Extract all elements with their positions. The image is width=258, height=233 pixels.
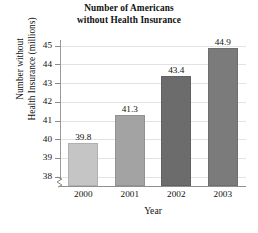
x-axis-title: Year [60, 205, 246, 216]
plot-area [60, 40, 246, 186]
y-axis-tick-label: 42 [34, 97, 52, 106]
y-axis-tick-label-text: 45 [34, 41, 52, 50]
y-axis-tick-label: 43 [34, 79, 52, 88]
x-axis-tick-label: 2001 [110, 189, 150, 200]
bar-value-label: 39.8 [63, 132, 103, 142]
y-axis-tick-label: 38 [34, 172, 52, 181]
y-axis-tick-label-text: 43 [34, 79, 52, 88]
axis-break-icon [55, 176, 66, 188]
bar[interactable] [161, 76, 191, 186]
y-axis-tick [55, 83, 60, 84]
y-axis-tick [55, 158, 60, 159]
y-axis-tick-label-text: 38 [34, 172, 52, 181]
bar[interactable] [115, 115, 145, 186]
y-axis-line [60, 40, 61, 180]
y-axis-tick-label: 44 [34, 60, 52, 69]
bar-value-label: 43.4 [156, 65, 196, 75]
bar-chart-figure: Number of Americans without Health Insur… [0, 0, 258, 233]
y-axis-tick [55, 121, 60, 122]
bar[interactable] [68, 143, 98, 186]
y-axis-tick-label: 41 [34, 116, 52, 125]
bar-value-label: 41.3 [110, 104, 150, 114]
y-axis-tick [55, 46, 60, 47]
x-axis-line [59, 186, 246, 187]
y-axis-tick-label-text: 40 [34, 135, 52, 144]
y-axis-tick-label: 39 [34, 153, 52, 162]
y-axis-tick-label-text: 42 [34, 97, 52, 106]
y-axis-title: Number without Health Insurance (million… [14, 0, 40, 154]
x-axis-tick-label: 2003 [203, 189, 243, 200]
bar[interactable] [208, 48, 238, 187]
y-axis-tick [55, 64, 60, 65]
x-axis-tick-label: 2002 [156, 189, 196, 200]
x-axis-tick-label: 2000 [63, 189, 103, 200]
y-axis-tick [55, 177, 60, 178]
y-axis-tick-label: 40 [34, 135, 52, 144]
y-axis-tick-label-text: 44 [34, 60, 52, 69]
y-axis-tick-label-text: 39 [34, 153, 52, 162]
y-axis-tick [55, 139, 60, 140]
y-axis-tick-label: 45 [34, 41, 52, 50]
y-axis-title-line-2: Health Insurance (millions) [26, 0, 38, 154]
y-axis-title-line-1: Number without [14, 0, 26, 154]
y-axis-tick [55, 102, 60, 103]
bar-value-label: 44.9 [203, 37, 243, 47]
y-axis-tick-label-text: 41 [34, 116, 52, 125]
